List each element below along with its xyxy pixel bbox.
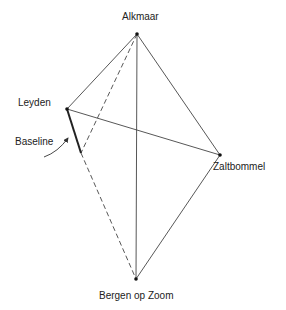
label-bergen: Bergen op Zoom <box>99 291 174 301</box>
label-baseline: Baseline <box>15 137 53 147</box>
edge-leyden-zaltbommel <box>67 109 220 155</box>
baseline-edge <box>67 109 81 153</box>
label-zaltbommel: Zaltbommel <box>213 162 265 172</box>
label-alkmaar: Alkmaar <box>122 12 159 22</box>
edge-alkmaar-zaltbommel <box>137 34 220 155</box>
edge-baseline-bergen-dashed <box>81 153 136 279</box>
edge-alkmaar-baseline-dashed <box>81 34 137 153</box>
label-leyden: Leyden <box>18 98 51 108</box>
node-leyden <box>65 107 69 111</box>
node-bergen <box>134 277 138 281</box>
triangulation-diagram <box>0 0 286 310</box>
node-alkmaar <box>135 32 139 36</box>
edge-alkmaar-bergen <box>136 34 137 279</box>
edge-zaltbommel-bergen <box>136 155 220 279</box>
node-zaltbommel <box>218 153 222 157</box>
edge-alkmaar-leyden <box>67 34 137 109</box>
